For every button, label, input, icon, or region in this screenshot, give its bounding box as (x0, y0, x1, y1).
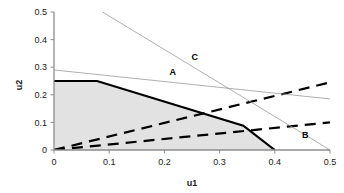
x-tick-label: 0.3 (213, 157, 226, 167)
x-tick-label: 0.5 (324, 157, 337, 167)
y-tick-label: 0.1 (34, 118, 47, 128)
y-tick-label: 0.3 (34, 62, 47, 72)
plot-canvas: 00.10.20.30.40.5 00.10.20.30.40.5 ABC u1… (0, 0, 344, 193)
curve-label-c: C (192, 52, 199, 62)
y-tick-label: 0 (42, 145, 47, 155)
x-axis-title: u1 (187, 178, 198, 188)
curve-label-b: B (302, 130, 309, 140)
y-axis-title: u2 (14, 80, 24, 91)
x-tick-label: 0 (51, 157, 56, 167)
x-tick-label: 0.2 (158, 157, 171, 167)
chart-figure: 00.10.20.30.40.5 00.10.20.30.40.5 ABC u1… (0, 0, 344, 193)
y-tick-label: 0.2 (34, 90, 47, 100)
y-tick-label: 0.5 (34, 7, 47, 17)
curve-label-a: A (169, 67, 176, 77)
y-tick-label: 0.4 (34, 35, 47, 45)
x-tick-label: 0.1 (103, 157, 116, 167)
x-tick-label: 0.4 (269, 157, 282, 167)
